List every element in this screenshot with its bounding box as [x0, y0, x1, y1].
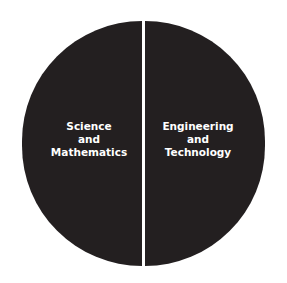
- label-line: Engineering: [145, 120, 258, 133]
- label-line: Science: [29, 120, 142, 133]
- label-line: Mathematics: [29, 146, 142, 159]
- segment-science-mathematics: Science and Mathematics: [22, 21, 142, 266]
- segment-label: Science and Mathematics: [29, 120, 142, 159]
- segment-engineering-technology: Engineering and Technology: [145, 21, 265, 266]
- label-line: and: [29, 133, 142, 146]
- split-circle-diagram: Science and Mathematics Engineering and …: [0, 0, 287, 283]
- label-line: Technology: [145, 146, 258, 159]
- segment-label: Engineering and Technology: [145, 120, 258, 159]
- label-line: and: [145, 133, 258, 146]
